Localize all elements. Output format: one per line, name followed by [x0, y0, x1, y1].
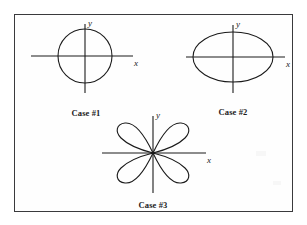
case-1-y-axis-label: y	[88, 19, 92, 28]
case-3-x-axis-label: x	[207, 156, 211, 165]
figure-frame: y x Case #1 y x Case #2	[14, 14, 293, 212]
case-3-caption: Case #3	[123, 200, 183, 210]
case-2-y-axis-label: y	[236, 20, 240, 29]
case-panel-3: y x Case #3	[85, 110, 235, 215]
case-panel-2: y x Case #2	[165, 15, 295, 125]
figure-page: y x Case #1 y x Case #2	[0, 0, 307, 225]
scan-artifact-right	[256, 151, 266, 156]
case-3-y-axis-label: y	[156, 111, 160, 120]
case-panel-1: y x Case #1	[15, 15, 155, 125]
scan-artifact-lower-right	[273, 181, 281, 185]
case-1-x-axis-label: x	[134, 59, 138, 68]
case-2-x-axis-label: x	[286, 60, 290, 69]
